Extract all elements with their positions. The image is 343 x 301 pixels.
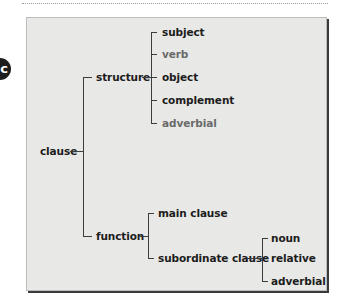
node-adverbial-clause: adverbial — [271, 275, 326, 287]
connector — [148, 213, 154, 214]
bracket-root — [83, 77, 84, 236]
connector — [83, 77, 92, 78]
node-main-clause: main clause — [158, 207, 227, 219]
bracket-function — [148, 213, 149, 258]
node-noun: noun — [271, 232, 300, 244]
node-function: function — [96, 230, 144, 242]
connector — [142, 77, 151, 78]
dotted-rule — [22, 3, 328, 4]
connector — [151, 100, 157, 101]
connector — [148, 258, 154, 259]
connector — [151, 123, 157, 124]
bracket-subordinate — [262, 238, 263, 281]
node-verb: verb — [162, 48, 188, 60]
connector — [70, 151, 83, 152]
connector — [151, 54, 157, 55]
section-badge: c — [0, 58, 11, 80]
node-complement: complement — [162, 94, 234, 106]
connector — [140, 236, 148, 237]
connector — [151, 77, 157, 78]
connector — [248, 258, 262, 259]
connector — [83, 236, 92, 237]
connector — [262, 238, 268, 239]
node-subject: subject — [162, 26, 205, 38]
connector — [151, 32, 157, 33]
bracket-structure — [151, 32, 152, 124]
node-relative: relative — [271, 252, 316, 264]
node-object: object — [162, 71, 198, 83]
node-adverbial: adverbial — [162, 117, 217, 129]
connector — [262, 281, 268, 282]
